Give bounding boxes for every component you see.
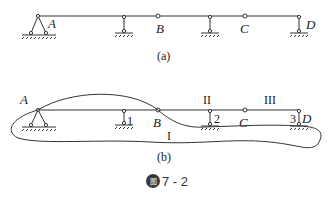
caption-a: (a) xyxy=(157,49,170,63)
label-d-a: D xyxy=(305,17,316,32)
hinge-c-a xyxy=(243,14,247,18)
label-a-a: A xyxy=(47,16,56,31)
pin-support-a-b xyxy=(22,108,56,131)
label-1-b: 1 xyxy=(127,114,133,128)
label-c-b: C xyxy=(239,115,248,130)
label-2-b: 2 xyxy=(214,112,220,126)
figure-number: 7 - 2 xyxy=(162,174,188,189)
subfigure-a xyxy=(22,14,308,39)
beam-diagram: A B C D (a) xyxy=(0,0,333,198)
label-a-b: A xyxy=(19,92,28,107)
label-b-a: B xyxy=(156,21,164,36)
label-d-b: D xyxy=(301,111,312,126)
label-3-b: 3 xyxy=(290,112,296,126)
link-support-1-a xyxy=(115,15,133,37)
region-label-iii: III xyxy=(264,93,276,107)
link-support-2-a xyxy=(201,15,219,37)
label-b-b: B xyxy=(153,115,161,130)
region-label-i: I xyxy=(167,129,171,143)
label-c-a: C xyxy=(240,21,249,36)
figure-badge-text: 图 xyxy=(150,178,157,186)
caption-b: (b) xyxy=(157,150,171,164)
region-label-ii: II xyxy=(203,93,211,107)
hinge-b-a xyxy=(156,14,160,18)
hinge-c-b xyxy=(243,108,247,112)
